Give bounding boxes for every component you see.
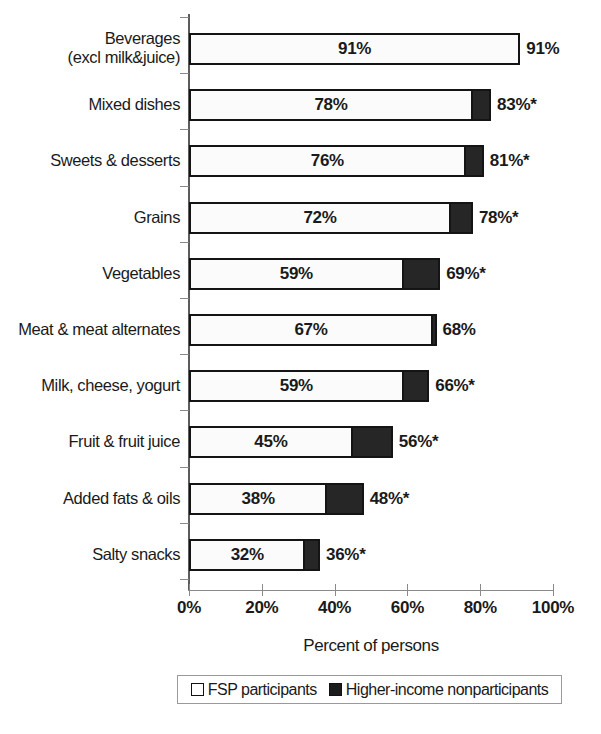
legend-swatch-light (191, 683, 204, 696)
bar-inner-value: 67% (189, 314, 433, 346)
bar-row: Salty snacks32%36%* (0, 535, 601, 575)
bar-inner-value: 78% (189, 89, 473, 121)
bar-row: Fruit & fruit juice45%56%* (0, 422, 601, 462)
bar-row: Vegetables59%69%* (0, 254, 601, 294)
category-label: Beverages (excl milk&juice) (0, 29, 180, 67)
bar-row: Sweets & desserts76%81%* (0, 141, 601, 181)
bar-row: Mixed dishes78%83%* (0, 85, 601, 125)
bar-end-value: 36%* (326, 539, 365, 571)
bar-end-value: 78%* (479, 202, 518, 234)
legend-item: FSP participants (191, 681, 317, 699)
y-axis-tick (180, 186, 189, 187)
stacked-bar: 91% (189, 33, 520, 65)
x-axis-tick-label: 80% (450, 598, 510, 618)
y-axis-tick (180, 17, 189, 18)
x-axis-tick-label: 40% (305, 598, 365, 618)
plot-area: Beverages (excl milk&juice)91%91%Mixed d… (0, 0, 601, 734)
y-axis-tick (180, 354, 189, 355)
bar-segment-nonparticipant (305, 539, 320, 571)
bar-inner-value: 45% (189, 426, 353, 458)
y-axis-tick (180, 523, 189, 524)
bar-inner-value: 76% (189, 145, 466, 177)
y-axis-tick (180, 129, 189, 130)
legend-label: FSP participants (208, 681, 317, 699)
x-axis-tick (262, 584, 263, 596)
category-label: Fruit & fruit juice (0, 432, 180, 451)
bar-inner-value: 59% (189, 258, 404, 290)
bar-inner-value: 59% (189, 370, 404, 402)
stacked-bar: 67% (189, 314, 437, 346)
bar-end-value: 68% (443, 314, 476, 346)
x-axis-line (188, 590, 554, 591)
x-axis-tick-label: 60% (377, 598, 437, 618)
bar-end-value: 83%* (497, 89, 536, 121)
category-label: Mixed dishes (0, 95, 180, 114)
legend-item: Higher-income nonparticipants (329, 681, 549, 699)
bar-segment-nonparticipant (327, 483, 363, 515)
bar-inner-value: 91% (189, 33, 520, 65)
category-label: Salty snacks (0, 545, 180, 564)
bar-row: Milk, cheese, yogurt59%66%* (0, 366, 601, 406)
stacked-bar: 38% (189, 483, 364, 515)
bar-segment-nonparticipant (451, 202, 473, 234)
stacked-bar: 59% (189, 370, 429, 402)
x-axis-tick-label: 20% (232, 598, 292, 618)
bar-end-value: 66%* (435, 370, 474, 402)
y-axis-tick (180, 467, 189, 468)
bar-end-value: 56%* (399, 426, 438, 458)
bar-end-value: 69%* (446, 258, 485, 290)
stacked-bar: 78% (189, 89, 491, 121)
stacked-bar: 45% (189, 426, 393, 458)
x-axis-tick-label: 100% (523, 598, 583, 618)
x-axis-title: Percent of persons (188, 636, 554, 656)
x-axis-tick (553, 584, 554, 596)
x-axis-tick-label: 0% (159, 598, 219, 618)
bar-segment-nonparticipant (433, 314, 437, 346)
bar-segment-nonparticipant (473, 89, 491, 121)
y-axis-tick (180, 73, 189, 74)
category-label: Added fats & oils (0, 489, 180, 508)
bar-row: Beverages (excl milk&juice)91%91% (0, 29, 601, 69)
category-label: Vegetables (0, 264, 180, 283)
bar-row: Grains72%78%* (0, 198, 601, 238)
x-axis-tick (480, 584, 481, 596)
bar-end-value: 81%* (490, 145, 529, 177)
y-axis-tick (180, 579, 189, 580)
bar-inner-value: 72% (189, 202, 451, 234)
stacked-bar: 76% (189, 145, 484, 177)
bar-inner-value: 32% (189, 539, 305, 571)
bar-segment-nonparticipant (466, 145, 484, 177)
x-axis-tick (189, 584, 190, 596)
bar-chart: Beverages (excl milk&juice)91%91%Mixed d… (0, 0, 601, 734)
x-axis-tick (335, 584, 336, 596)
legend-swatch-dark (329, 683, 342, 696)
category-label: Milk, cheese, yogurt (0, 376, 180, 395)
stacked-bar: 32% (189, 539, 320, 571)
y-axis-tick (180, 298, 189, 299)
bar-row: Added fats & oils38%48%* (0, 479, 601, 519)
x-axis-tick (407, 584, 408, 596)
bar-segment-nonparticipant (404, 258, 440, 290)
category-label: Sweets & desserts (0, 151, 180, 170)
bar-end-value: 91% (526, 33, 559, 65)
category-label: Meat & meat alternates (0, 320, 180, 339)
category-label: Grains (0, 208, 180, 227)
bar-row: Meat & meat alternates67%68% (0, 310, 601, 350)
stacked-bar: 72% (189, 202, 473, 234)
bar-inner-value: 38% (189, 483, 327, 515)
legend-label: Higher-income nonparticipants (346, 681, 549, 699)
y-axis-tick (180, 410, 189, 411)
stacked-bar: 59% (189, 258, 440, 290)
bar-segment-nonparticipant (404, 370, 429, 402)
bar-end-value: 48%* (370, 483, 409, 515)
legend: FSP participantsHigher-income nonpartici… (177, 675, 562, 704)
y-axis-tick (180, 242, 189, 243)
bar-segment-nonparticipant (353, 426, 393, 458)
